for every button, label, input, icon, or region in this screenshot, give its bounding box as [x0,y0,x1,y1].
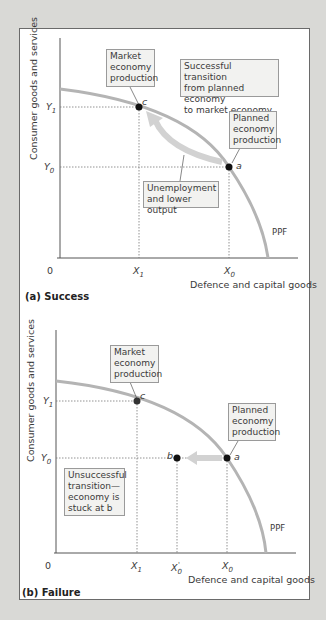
panel-a-planned-callout: Planned economy production [229,111,277,149]
panel-b-point-c-label: c [140,390,145,401]
panel-b-point-a [224,455,231,462]
panel-b-point-b-label: b [167,450,173,461]
panel-b-y1-tick: Y1 [43,395,53,411]
panel-b-unsuccessful-callout: Unsuccessful transition— economy is stuc… [64,468,125,516]
panel-a-ppf-label: PPF [272,227,287,238]
panel-b-x1-tick: X1 [131,560,142,576]
panel-b-planned-callout: Planned economy production [228,403,276,441]
panel-a-y-axis-label: Consumer goods and services [28,17,39,160]
panel-b-caption: (b) Failure [22,587,80,598]
panel-b-origin: 0 [45,560,51,571]
panel-b-arrow-shaft [196,455,222,461]
panel-b-market-callout: Market economy production [110,345,159,383]
panel-a-x1-tick: X1 [133,265,144,281]
panel-b-point-b [174,455,181,462]
panel-a-caption: (a) Success [25,291,89,302]
panel-b-point-a-label: a [234,451,240,462]
panel-b-arrowhead [186,451,197,465]
panel-a-title-callout: Successful transition from planned econo… [180,59,279,97]
panel-a-point-a-label: a [236,160,242,171]
panel-a-x-axis-label: Defence and capital goods [190,279,317,290]
panel-b-x-axis-label: Defence and capital goods [188,574,315,585]
panel-a-unemployment-callout: Unemployment and lower output [143,181,219,208]
panel-a-y1-tick: Y1 [46,101,56,117]
panel-a-point-a [226,164,233,171]
panel-a-point-c-label: c [142,96,147,107]
panel-b-x0-prime-tick: X0' [171,560,180,578]
panel-a-origin: 0 [47,265,53,276]
panel-a-y0-tick: Y0 [44,161,54,177]
panel-b-y-axis-label: Consumer goods and services [25,319,36,462]
panel-b-ppf-label: PPF [270,523,285,534]
panel-a-market-callout: Market economy production [106,49,155,87]
panel-b-y0-tick: Y0 [41,452,51,468]
